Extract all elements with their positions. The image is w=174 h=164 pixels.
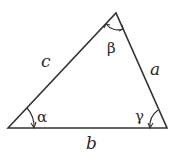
side-label-b: b (86, 133, 97, 153)
triangle-figure: c a b β α γ (0, 0, 174, 164)
angle-label-alpha: α (37, 108, 47, 126)
side-label-c: c (41, 51, 51, 71)
side-label-a: a (150, 59, 160, 79)
angle-arc-alpha (27, 108, 34, 128)
angle-label-beta: β (107, 39, 116, 57)
angle-label-gamma: γ (135, 107, 144, 125)
triangle-diagram: c a b β α γ (0, 0, 174, 164)
